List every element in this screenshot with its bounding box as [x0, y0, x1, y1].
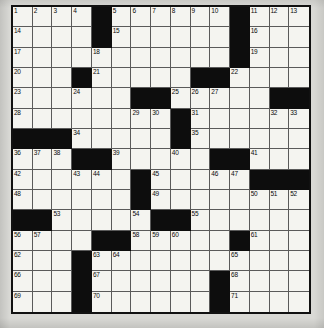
grid-cell[interactable]: 3	[52, 7, 72, 27]
grid-cell[interactable]: 6	[131, 7, 151, 27]
grid-cell[interactable]	[270, 27, 290, 47]
grid-cell[interactable]	[52, 251, 72, 271]
grid-cell[interactable]: 21	[92, 68, 112, 88]
grid-cell[interactable]	[250, 68, 270, 88]
grid-cell[interactable]	[250, 251, 270, 271]
grid-cell[interactable]	[171, 27, 191, 47]
grid-cell[interactable]	[33, 68, 53, 88]
grid-cell[interactable]	[270, 129, 290, 149]
grid-cell[interactable]: 19	[250, 48, 270, 68]
grid-cell[interactable]: 36	[13, 149, 33, 169]
grid-cell[interactable]: 37	[33, 149, 53, 169]
grid-cell[interactable]	[250, 109, 270, 129]
grid-cell[interactable]: 9	[191, 7, 211, 27]
grid-cell[interactable]	[151, 27, 171, 47]
grid-cell[interactable]	[151, 68, 171, 88]
grid-cell[interactable]	[230, 210, 250, 230]
grid-cell[interactable]: 28	[13, 109, 33, 129]
grid-cell[interactable]	[92, 109, 112, 129]
grid-cell[interactable]: 58	[131, 231, 151, 251]
grid-cell[interactable]	[210, 231, 230, 251]
grid-cell[interactable]	[289, 251, 309, 271]
grid-cell[interactable]	[131, 271, 151, 291]
grid-cell[interactable]	[171, 170, 191, 190]
grid-cell[interactable]: 40	[171, 149, 191, 169]
grid-cell[interactable]	[131, 27, 151, 47]
grid-cell[interactable]	[289, 27, 309, 47]
grid-cell[interactable]: 47	[230, 170, 250, 190]
grid-cell[interactable]	[33, 170, 53, 190]
grid-cell[interactable]	[72, 231, 92, 251]
grid-cell[interactable]: 51	[270, 190, 290, 210]
grid-cell[interactable]	[52, 292, 72, 312]
grid-cell[interactable]	[250, 210, 270, 230]
grid-cell[interactable]	[151, 292, 171, 312]
grid-cell[interactable]	[289, 271, 309, 291]
grid-cell[interactable]	[230, 109, 250, 129]
grid-cell[interactable]	[112, 88, 132, 108]
grid-cell[interactable]	[112, 48, 132, 68]
grid-cell[interactable]: 22	[230, 68, 250, 88]
grid-cell[interactable]: 4	[72, 7, 92, 27]
grid-cell[interactable]	[131, 129, 151, 149]
grid-cell[interactable]	[52, 190, 72, 210]
grid-cell[interactable]	[270, 271, 290, 291]
grid-cell[interactable]: 54	[131, 210, 151, 230]
grid-cell[interactable]	[289, 48, 309, 68]
grid-cell[interactable]	[250, 88, 270, 108]
grid-cell[interactable]	[171, 68, 191, 88]
grid-cell[interactable]: 13	[289, 7, 309, 27]
grid-cell[interactable]: 62	[13, 251, 33, 271]
grid-cell[interactable]: 65	[230, 251, 250, 271]
grid-cell[interactable]	[171, 190, 191, 210]
grid-cell[interactable]	[131, 251, 151, 271]
grid-cell[interactable]: 38	[52, 149, 72, 169]
grid-cell[interactable]: 14	[13, 27, 33, 47]
grid-cell[interactable]: 20	[13, 68, 33, 88]
grid-cell[interactable]	[112, 109, 132, 129]
grid-cell[interactable]	[289, 149, 309, 169]
grid-cell[interactable]: 26	[191, 88, 211, 108]
grid-cell[interactable]	[72, 109, 92, 129]
grid-cell[interactable]: 43	[72, 170, 92, 190]
grid-cell[interactable]	[131, 149, 151, 169]
grid-cell[interactable]	[33, 292, 53, 312]
grid-cell[interactable]	[112, 210, 132, 230]
grid-cell[interactable]	[171, 48, 191, 68]
grid-cell[interactable]: 45	[151, 170, 171, 190]
grid-cell[interactable]	[33, 48, 53, 68]
grid-cell[interactable]	[270, 210, 290, 230]
grid-cell[interactable]	[131, 68, 151, 88]
grid-cell[interactable]: 53	[52, 210, 72, 230]
grid-cell[interactable]: 24	[72, 88, 92, 108]
grid-cell[interactable]: 61	[250, 231, 270, 251]
grid-cell[interactable]: 34	[72, 129, 92, 149]
grid-cell[interactable]: 42	[13, 170, 33, 190]
grid-cell[interactable]	[131, 292, 151, 312]
grid-cell[interactable]: 48	[13, 190, 33, 210]
grid-cell[interactable]	[151, 271, 171, 291]
grid-cell[interactable]: 17	[13, 48, 33, 68]
grid-cell[interactable]: 71	[230, 292, 250, 312]
grid-cell[interactable]	[33, 271, 53, 291]
grid-cell[interactable]	[33, 251, 53, 271]
grid-cell[interactable]: 27	[210, 88, 230, 108]
grid-cell[interactable]: 25	[171, 88, 191, 108]
grid-cell[interactable]	[72, 27, 92, 47]
grid-cell[interactable]	[72, 48, 92, 68]
grid-cell[interactable]	[289, 68, 309, 88]
grid-cell[interactable]: 63	[92, 251, 112, 271]
grid-cell[interactable]	[52, 109, 72, 129]
grid-cell[interactable]: 46	[210, 170, 230, 190]
grid-cell[interactable]	[210, 129, 230, 149]
grid-cell[interactable]	[270, 292, 290, 312]
grid-cell[interactable]: 44	[92, 170, 112, 190]
crossword-grid[interactable]: 1234567891011121314151617181920212223242…	[11, 5, 311, 314]
grid-cell[interactable]	[289, 129, 309, 149]
grid-cell[interactable]	[33, 190, 53, 210]
grid-cell[interactable]	[92, 129, 112, 149]
grid-cell[interactable]	[250, 271, 270, 291]
grid-cell[interactable]	[33, 109, 53, 129]
grid-cell[interactable]	[171, 271, 191, 291]
grid-cell[interactable]: 67	[92, 271, 112, 291]
